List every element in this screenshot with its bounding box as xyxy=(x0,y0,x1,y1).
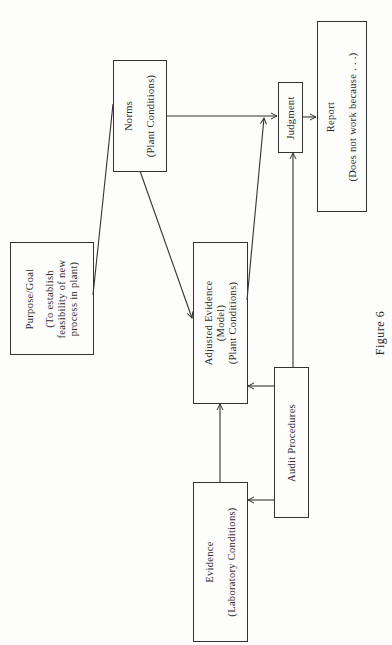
node-purpose-goal: Purpose/Goal (To establish feasibility o… xyxy=(10,242,94,355)
norms-subtitle: (Plant Conditions) xyxy=(145,75,157,158)
node-audit-procedures: Audit Procedures xyxy=(274,367,309,518)
node-report: Report (Does not work because . . .) xyxy=(317,21,367,212)
purpose-line2: feasibility of new xyxy=(56,259,68,338)
node-judgment: Judgment xyxy=(278,82,303,153)
evidence-title: Evidence xyxy=(204,507,216,616)
edge-norms-adjusted xyxy=(140,171,192,318)
report-subtitle: (Does not work because . . .) xyxy=(347,52,359,181)
node-adjusted-evidence: Adjusted Evidence (Model) (Plant Conditi… xyxy=(193,242,248,404)
node-evidence: Evidence (Laboratory Conditions) xyxy=(193,482,248,642)
figure-caption: Figure 6 xyxy=(373,311,388,355)
adjusted-evidence-conditions: (Plant Conditions) xyxy=(227,281,239,366)
purpose-line3: process in plant) xyxy=(68,259,80,338)
adjusted-evidence-model: (Model) xyxy=(215,281,227,366)
judgment-title: Judgment xyxy=(285,96,297,139)
purpose-title: Purpose/Goal xyxy=(24,259,36,338)
evidence-subtitle: (Laboratory Conditions) xyxy=(226,507,238,616)
audit-title: Audit Procedures xyxy=(286,404,298,482)
norms-title: Norms xyxy=(123,75,135,158)
edge-purpose-norms xyxy=(93,104,113,295)
node-norms: Norms (Plant Conditions) xyxy=(113,60,167,172)
edge-adjusted-judgment xyxy=(247,118,264,300)
purpose-line1: (To establish xyxy=(44,259,56,338)
adjusted-evidence-title: Adjusted Evidence xyxy=(203,281,215,366)
report-title: Report xyxy=(325,52,337,181)
